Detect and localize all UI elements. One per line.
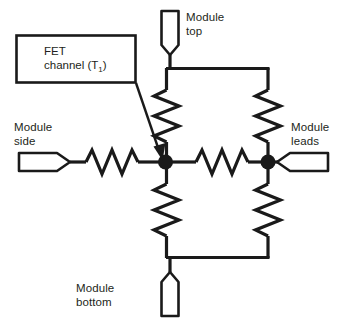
terminal-module-bottom-pennant [162, 272, 179, 316]
resistor-bottom-right-zigzag [256, 184, 281, 236]
callout-label-line-2: channel (T1) [44, 58, 107, 78]
resistor-side-zigzag [86, 150, 138, 174]
terminal-module-side-pennant [19, 153, 70, 171]
callout-label-line-1: FET [44, 44, 66, 59]
callout-label-prefix: channel (T [44, 59, 98, 71]
label-module-top-line-2: top [186, 25, 202, 37]
terminal-module-side [19, 153, 86, 171]
resistor-center-right [165, 150, 269, 174]
resistor-top-right-zigzag [256, 90, 281, 142]
label-module-bottom: Module bottom [76, 282, 114, 309]
junction-node-right [261, 155, 276, 170]
terminal-module-top-pennant [162, 11, 179, 55]
label-module-top-line-1: Module [186, 11, 224, 23]
fet-thermal-network-diagram: FET channel (T1) Module top Module side … [0, 0, 347, 327]
resistor-bottom-left-zigzag [154, 184, 179, 236]
label-module-top: Module top [186, 11, 224, 38]
label-module-leads: Module leads [291, 121, 329, 148]
terminal-module-leads [268, 153, 328, 171]
label-module-side: Module side [14, 121, 52, 148]
label-module-side-line-2: side [14, 135, 36, 147]
resistor-bottom-right [256, 162, 281, 258]
label-module-leads-line-1: Module [291, 121, 329, 133]
resistor-bottom-left [154, 162, 179, 258]
resistor-top-right [256, 68, 281, 162]
callout-arrow [136, 83, 166, 161]
label-module-leads-line-2: leads [291, 135, 319, 147]
resistor-side [86, 150, 166, 174]
resistor-top-left-zigzag [154, 90, 179, 142]
terminal-module-bottom [162, 258, 179, 316]
label-module-bottom-line-2: bottom [76, 296, 112, 308]
label-module-bottom-line-1: Module [76, 282, 114, 294]
terminal-module-top [162, 11, 179, 68]
resistor-center-right-zigzag [196, 150, 248, 174]
callout-label-suffix: ) [103, 59, 107, 71]
label-module-side-line-1: Module [14, 121, 52, 133]
terminal-module-leads-pennant [277, 153, 328, 171]
